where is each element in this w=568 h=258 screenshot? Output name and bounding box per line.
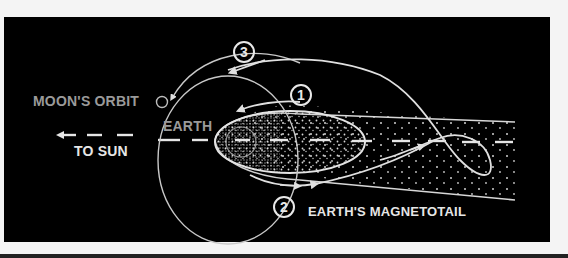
marker-3: 3 [233, 41, 255, 63]
magnetotail-label: EARTH'S MAGNETOTAIL [308, 204, 466, 219]
marker-2: 2 [273, 196, 295, 218]
marker-1: 1 [290, 84, 312, 106]
to-sun-arrow-icon [56, 131, 64, 139]
moons-orbit-label: MOON'S ORBIT [33, 93, 139, 109]
moon-icon [157, 97, 168, 108]
to-sun-label: TO SUN [74, 143, 128, 159]
magnetotail-diagram [0, 0, 568, 258]
earth-label: EARTH [163, 118, 212, 134]
